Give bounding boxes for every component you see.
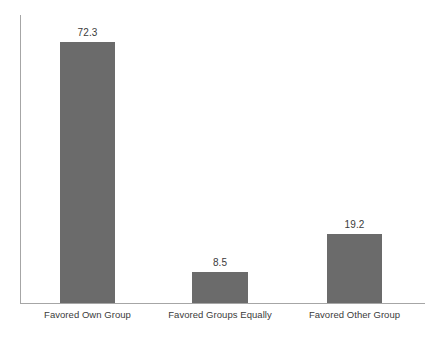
bar-value-label-1: 72.3 bbox=[60, 27, 115, 38]
bar-value-label-3: 19.2 bbox=[327, 219, 382, 230]
x-tick-label-favored-groups-equally: Favored Groups Equally bbox=[155, 309, 285, 320]
x-tick-label-favored-other-group: Favored Other Group bbox=[294, 309, 415, 320]
x-tick-label-favored-own-group: Favored Own Group bbox=[27, 309, 148, 320]
bar-favored-groups-equally[interactable] bbox=[192, 272, 248, 303]
bar-favored-other-group[interactable] bbox=[327, 234, 382, 303]
bar-favored-own-group[interactable] bbox=[60, 42, 115, 303]
bar-value-label-2: 8.5 bbox=[192, 257, 248, 268]
plot-area: 72.3 Favored Own Group 8.5 Favored Group… bbox=[0, 0, 439, 342]
bar-chart: 72.3 Favored Own Group 8.5 Favored Group… bbox=[0, 0, 439, 342]
